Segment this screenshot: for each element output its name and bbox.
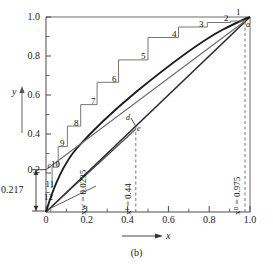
stage-staircase [51, 21, 245, 188]
q-line [131, 118, 136, 126]
point-label-d: d [126, 113, 130, 122]
stage-label-12: 12 [44, 192, 53, 202]
x-axis-ticks [46, 206, 250, 212]
stage-label-6: 6 [112, 74, 117, 84]
xd-value-label: xᴰ = 0.975 [232, 177, 242, 215]
x-tick-label-0.2: 0.2 [75, 214, 99, 225]
x-tick-label-1.0: 1.0 [238, 214, 262, 225]
y-tick-label-0.6: 0.6 [14, 89, 40, 100]
stage-label-11: 11 [46, 179, 55, 189]
x-axis-label: x [166, 230, 170, 241]
y-tick-label-0.8: 0.8 [14, 50, 40, 61]
point-label-a: a [246, 20, 250, 29]
stage-label-1: 1 [236, 7, 241, 17]
stage-label-2: 2 [224, 13, 229, 23]
intercept-bracket [32, 170, 46, 211]
stage-label-7: 7 [91, 96, 96, 106]
stage-label-4: 4 [172, 29, 177, 39]
rectifying-operating-line [46, 21, 245, 170]
stage-label-9: 9 [60, 138, 65, 148]
mccabe-thiele-figure: 1.0 0.8 0.6 0.4 0.2 0 0.2 0.4 0.6 0.8 1.… [0, 0, 273, 267]
stage-label-3: 3 [199, 19, 204, 29]
intercept-value-label: 0.217 [1, 184, 24, 195]
x-tick-label-0.4: 0.4 [116, 214, 140, 225]
xw-value-label: xᴡ = 0.0235 [78, 170, 88, 215]
point-label-e: e [137, 124, 141, 133]
x-tick-label-0: 0 [34, 214, 58, 225]
point-label-c: c [48, 161, 52, 170]
x-axis-arrow [122, 233, 163, 238]
stage-label-8: 8 [74, 118, 79, 128]
y-tick-label-1.0: 1.0 [14, 11, 40, 22]
x-tick-label-0.8: 0.8 [197, 214, 221, 225]
stage-label-10: 10 [51, 159, 60, 169]
plot-canvas [0, 0, 273, 267]
stage-label-5: 5 [141, 51, 146, 61]
figure-caption: (b) [0, 247, 273, 258]
xf-value-label: xᶠ = 0.44 [123, 183, 133, 215]
x-tick-label-0.6: 0.6 [156, 214, 180, 225]
y-tick-label-0.4: 0.4 [14, 128, 40, 139]
y-axis-label: y [12, 86, 16, 97]
y-tick-label-0.2: 0.2 [14, 164, 40, 175]
